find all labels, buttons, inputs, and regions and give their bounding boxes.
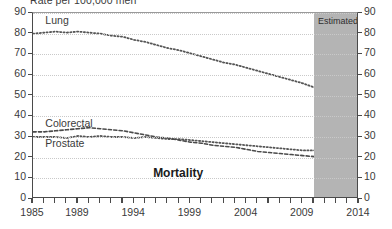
x-tick-mark — [301, 198, 302, 203]
y-tick-mark-right — [358, 156, 362, 157]
x-tick-mark — [31, 198, 32, 203]
x-tick-label: 2004 — [234, 206, 257, 218]
gridline — [33, 13, 357, 14]
chart-title: Rate per 100,000 men — [30, 0, 137, 6]
y-tick-label-left: 80 — [0, 26, 26, 38]
x-tick-mark — [346, 198, 347, 203]
x-tick-label: 1999 — [178, 206, 201, 218]
y-tick-label-right: 50 — [364, 88, 390, 100]
x-tick-mark — [99, 198, 100, 203]
gridline — [33, 54, 357, 55]
x-tick-mark — [155, 198, 156, 203]
mortality-rate-chart: Rate per 100,000 men 0102030405060708090… — [0, 0, 392, 229]
x-tick-mark — [267, 198, 268, 203]
series-line-lung — [33, 32, 358, 102]
y-tick-mark-right — [358, 12, 362, 13]
y-tick-label-left: 70 — [0, 46, 26, 58]
y-tick-mark-right — [358, 177, 362, 178]
x-tick-mark — [324, 198, 325, 203]
y-tick-label-left: 30 — [0, 129, 26, 141]
x-tick-mark — [200, 198, 201, 203]
y-tick-label-left: 0 — [0, 191, 26, 203]
y-tick-label-right: 20 — [364, 150, 390, 162]
x-tick-mark — [211, 198, 212, 203]
series-label-lung: Lung — [45, 14, 68, 26]
gridline — [33, 34, 357, 35]
plot-area: Lung Colorectal Prostate Estimated Morta… — [32, 12, 358, 198]
x-tick-label: 2014 — [346, 206, 369, 218]
estimated-region — [314, 13, 358, 197]
x-tick-mark — [357, 198, 358, 203]
mortality-annotation: Mortality — [153, 166, 203, 180]
x-tick-mark — [144, 198, 145, 203]
y-tick-mark-right — [358, 32, 362, 33]
y-tick-label-right: 40 — [364, 108, 390, 120]
y-tick-label-left: 60 — [0, 67, 26, 79]
x-tick-mark — [43, 198, 44, 203]
y-tick-mark-right — [358, 94, 362, 95]
y-tick-label-left: 10 — [0, 170, 26, 182]
x-tick-mark — [133, 198, 134, 203]
y-tick-label-left: 20 — [0, 150, 26, 162]
gridline — [33, 158, 357, 159]
x-tick-mark — [166, 198, 167, 203]
x-tick-mark — [110, 198, 111, 203]
y-tick-label-right: 60 — [364, 67, 390, 79]
x-tick-mark — [223, 198, 224, 203]
y-tick-label-right: 70 — [364, 46, 390, 58]
y-tick-label-left: 40 — [0, 108, 26, 120]
x-tick-mark — [54, 198, 55, 203]
x-tick-label: 1989 — [65, 206, 88, 218]
gridline — [33, 96, 357, 97]
x-tick-mark — [290, 198, 291, 203]
x-tick-mark — [65, 198, 66, 203]
y-tick-mark-right — [358, 198, 362, 199]
x-tick-label: 2009 — [290, 206, 313, 218]
y-tick-label-right: 90 — [364, 5, 390, 17]
x-tick-mark — [279, 198, 280, 203]
series-label-prostate: Prostate — [45, 137, 84, 149]
x-tick-mark — [312, 198, 313, 203]
y-tick-label-right: 30 — [364, 129, 390, 141]
x-tick-mark — [88, 198, 89, 203]
x-tick-mark — [335, 198, 336, 203]
x-tick-label: 1985 — [20, 206, 43, 218]
y-tick-mark-right — [358, 53, 362, 54]
y-tick-label-left: 90 — [0, 5, 26, 17]
y-tick-mark-right — [358, 136, 362, 137]
x-tick-mark — [256, 198, 257, 203]
y-tick-mark-right — [358, 74, 362, 75]
y-tick-mark-right — [358, 115, 362, 116]
x-tick-mark — [189, 198, 190, 203]
estimated-label: Estimated — [318, 16, 358, 26]
y-tick-label-left: 50 — [0, 88, 26, 100]
x-tick-mark — [121, 198, 122, 203]
y-tick-label-right: 0 — [364, 191, 390, 203]
x-tick-mark — [234, 198, 235, 203]
x-tick-mark — [245, 198, 246, 203]
x-tick-mark — [76, 198, 77, 203]
y-tick-label-right: 80 — [364, 26, 390, 38]
y-tick-label-right: 10 — [364, 170, 390, 182]
x-tick-label: 1994 — [121, 206, 144, 218]
series-label-colorectal: Colorectal — [45, 117, 92, 129]
gridline — [33, 75, 357, 76]
x-tick-mark — [178, 198, 179, 203]
